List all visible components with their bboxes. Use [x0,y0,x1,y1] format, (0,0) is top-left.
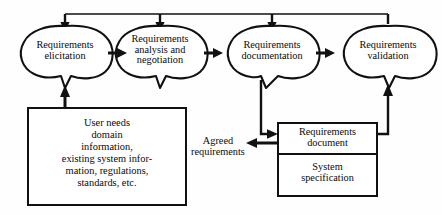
flow-arrow-outputs-to-validation [377,84,393,134]
process-node-documentation-shape [228,26,320,88]
feedback-bus [60,14,388,32]
input-box-shape [28,108,186,205]
flow-arrow-documentation-to-outputs [261,80,278,139]
flow-arrow-outputs-to-agreed-requirements [246,138,278,148]
diagram-canvas [0,0,442,215]
process-node-elicitation-shape [21,26,113,88]
requirements-process-diagram: Requirements elicitation Requirements an… [0,0,442,215]
flow-arrow-inputs-to-elicitation [60,85,70,108]
output-box-shape [278,123,377,196]
process-node-analysis-shape [116,26,208,88]
process-node-validation-shape [344,26,437,88]
